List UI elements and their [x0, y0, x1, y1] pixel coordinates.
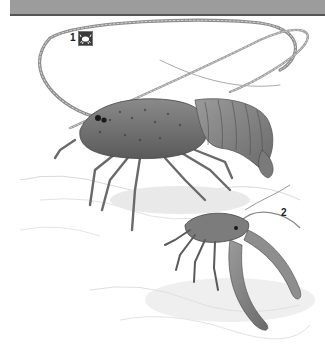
lobster-illustration	[0, 16, 325, 354]
lobster-1-body	[80, 99, 273, 178]
figure-label-2: 2	[281, 208, 287, 218]
header-band	[10, 0, 325, 16]
illustration-plate	[0, 16, 325, 354]
figure-label-1: 1	[70, 33, 76, 43]
crab-icon	[78, 31, 93, 46]
